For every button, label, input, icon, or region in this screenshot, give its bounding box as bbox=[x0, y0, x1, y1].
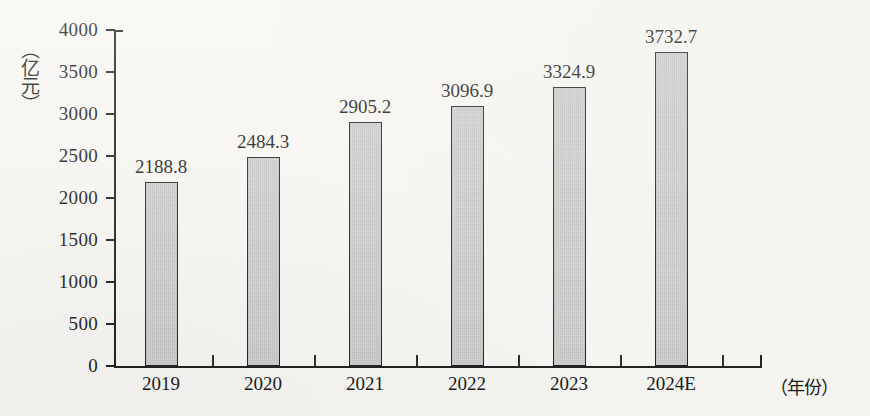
bar-chart: （亿元） 05001000150020002500300035004000 21… bbox=[0, 0, 870, 416]
x-axis-category-label: 2020 bbox=[208, 374, 318, 393]
y-axis-tick bbox=[106, 113, 115, 115]
y-axis-tick-label: 3000 bbox=[18, 104, 98, 123]
x-axis-category-label: 2024E bbox=[616, 374, 726, 393]
paper-grain-overlay bbox=[0, 0, 870, 416]
x-axis-category-label: 2021 bbox=[310, 374, 420, 393]
y-axis-tick-label: 3500 bbox=[18, 62, 98, 81]
x-axis-tick bbox=[416, 355, 418, 367]
y-axis-tick bbox=[106, 323, 115, 325]
bar-value-label: 3732.7 bbox=[601, 27, 741, 46]
bar-value-label: 3096.9 bbox=[397, 81, 537, 100]
y-axis-tick-label: 1500 bbox=[18, 230, 98, 249]
bar[interactable] bbox=[655, 52, 688, 366]
bar[interactable] bbox=[349, 122, 382, 366]
y-axis-tick-label: 1000 bbox=[18, 272, 98, 291]
x-axis-tick bbox=[314, 355, 316, 367]
y-axis-tick bbox=[106, 239, 115, 241]
y-axis-tick-label: 4000 bbox=[18, 20, 98, 39]
bar[interactable] bbox=[451, 106, 484, 366]
bar[interactable] bbox=[247, 157, 280, 366]
y-axis-tick bbox=[106, 71, 115, 73]
x-axis-category-label: 2023 bbox=[514, 374, 624, 393]
x-axis-tick bbox=[518, 355, 520, 367]
x-axis-tick bbox=[212, 355, 214, 367]
x-axis-tick bbox=[722, 355, 724, 367]
x-axis-end-cap bbox=[760, 355, 762, 368]
bar-value-label: 3324.9 bbox=[499, 62, 639, 81]
x-axis-tick bbox=[620, 355, 622, 367]
x-axis-category-label: 2022 bbox=[412, 374, 522, 393]
bar-value-label: 2484.3 bbox=[193, 132, 333, 151]
x-axis-category-label: 2019 bbox=[106, 374, 216, 393]
y-axis-tick bbox=[106, 197, 115, 199]
bar[interactable] bbox=[553, 87, 586, 366]
y-axis-tick bbox=[106, 281, 115, 283]
y-axis-tick-label: 2000 bbox=[18, 188, 98, 207]
x-axis-title: （年份） bbox=[770, 373, 838, 399]
y-axis-tick-label: 500 bbox=[18, 314, 98, 333]
bar-value-label: 2188.8 bbox=[91, 157, 231, 176]
y-axis-top-cap bbox=[114, 30, 123, 32]
y-axis-tick bbox=[106, 29, 115, 31]
y-axis-tick-label: 2500 bbox=[18, 146, 98, 165]
y-axis-line bbox=[114, 30, 116, 368]
y-axis-tick-label: 0 bbox=[18, 356, 98, 375]
bar[interactable] bbox=[145, 182, 178, 366]
